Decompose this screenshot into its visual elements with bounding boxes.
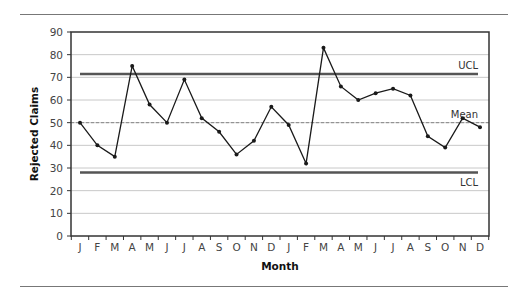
x-tick-label: A	[407, 241, 415, 253]
lcl-label: LCL	[460, 177, 479, 188]
x-tick-label: F	[303, 241, 309, 253]
data-point	[408, 93, 412, 97]
x-tick-label: D	[267, 241, 275, 253]
x-tick-label: J	[286, 241, 290, 253]
x-tick-label: J	[164, 241, 168, 253]
ucl-label: UCL	[458, 60, 478, 71]
data-point	[148, 103, 152, 107]
y-tick-label: 90	[50, 26, 63, 38]
x-tick-label: N	[250, 241, 258, 253]
y-tick-label: 60	[50, 94, 63, 106]
series-line	[80, 48, 480, 164]
data-point	[304, 161, 308, 165]
data-point	[374, 91, 378, 95]
x-tick-label: A	[129, 241, 137, 253]
x-tick-label: F	[94, 241, 100, 253]
data-point	[269, 105, 273, 109]
data-point	[95, 143, 99, 147]
data-point	[478, 125, 482, 129]
x-tick-label: S	[216, 241, 223, 253]
y-tick-label: 0	[56, 230, 63, 242]
data-point	[391, 87, 395, 91]
x-tick-label: J	[77, 241, 81, 253]
data-point	[339, 84, 343, 88]
x-tick-label: S	[424, 241, 431, 253]
x-tick-label: M	[110, 241, 119, 253]
data-point	[252, 139, 256, 143]
x-tick-label: J	[182, 241, 186, 253]
data-point	[461, 116, 465, 120]
data-series	[78, 46, 482, 166]
x-axis-ticks: JFMAMJJASONDJFMAMJJASOND	[71, 236, 488, 253]
x-tick-label: A	[198, 241, 206, 253]
y-tick-label: 30	[50, 162, 63, 174]
y-axis-ticks: 0102030405060708090	[50, 26, 71, 242]
data-point	[200, 116, 204, 120]
data-point	[217, 130, 221, 134]
x-tick-label: M	[319, 241, 328, 253]
data-point	[443, 146, 447, 150]
y-tick-label: 10	[50, 207, 63, 219]
x-tick-label: D	[476, 241, 484, 253]
x-tick-label: N	[459, 241, 467, 253]
data-point	[113, 155, 117, 159]
x-tick-label: M	[145, 241, 154, 253]
x-tick-label: M	[354, 241, 363, 253]
y-tick-label: 50	[50, 117, 63, 129]
x-tick-label: J	[373, 241, 377, 253]
x-axis-title: Month	[261, 260, 299, 272]
y-tick-label: 20	[50, 185, 63, 197]
x-tick-label: J	[390, 241, 394, 253]
x-tick-label: A	[337, 241, 345, 253]
data-point	[321, 46, 325, 50]
data-point	[130, 64, 134, 68]
y-axis-title: Rejected Claims	[28, 87, 40, 182]
y-tick-label: 80	[50, 49, 63, 61]
data-point	[426, 134, 430, 138]
data-point	[78, 121, 82, 125]
control-chart: 0102030405060708090 JFMAMJJASONDJFMAMJJA…	[0, 0, 524, 288]
y-tick-label: 40	[50, 139, 63, 151]
x-tick-label: O	[232, 241, 240, 253]
data-point	[182, 78, 186, 82]
data-point	[287, 123, 291, 127]
y-tick-label: 70	[50, 71, 63, 83]
x-tick-label: O	[441, 241, 449, 253]
data-point	[165, 121, 169, 125]
data-point	[235, 152, 239, 156]
data-point	[356, 98, 360, 102]
